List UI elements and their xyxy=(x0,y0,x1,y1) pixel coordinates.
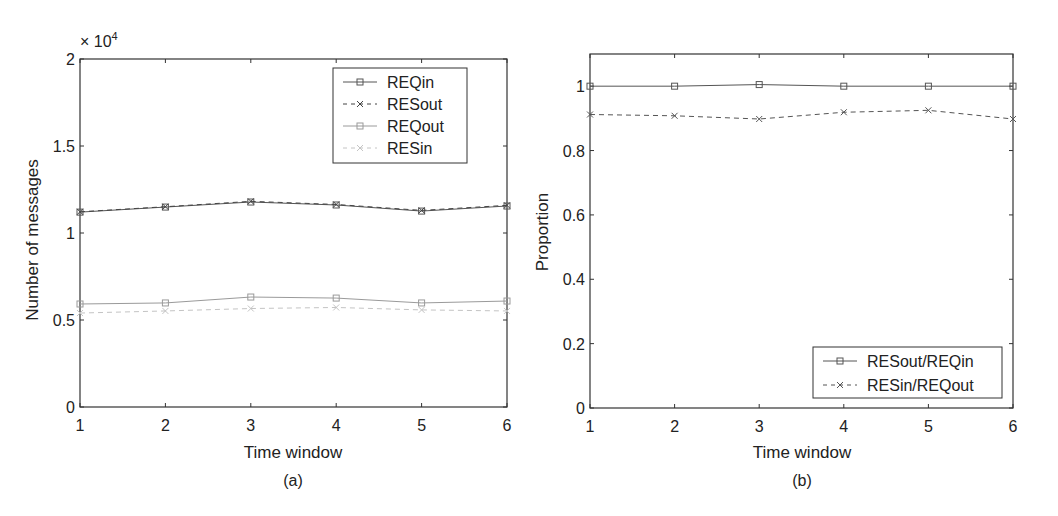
series-reqin xyxy=(77,199,510,215)
y-tick-label: 0.5 xyxy=(53,312,75,329)
series-resout xyxy=(77,198,510,214)
x-tick-label: 4 xyxy=(332,417,341,434)
y-axis-label-a: Number of messages xyxy=(23,159,42,321)
y-multiplier-exp: 4 xyxy=(112,30,118,42)
panel-label-a: (a) xyxy=(283,472,303,489)
x-tick-label: 3 xyxy=(246,417,255,434)
x-tick-label: 6 xyxy=(503,417,512,434)
legend-label: RESin xyxy=(387,140,432,157)
series-resout-reqin xyxy=(587,82,1016,90)
y-tick-label: 1 xyxy=(66,225,75,242)
legend-label: RESout/REQin xyxy=(867,353,974,370)
y-tick-label: 2 xyxy=(66,51,75,68)
x-tick-label: 1 xyxy=(586,418,595,435)
x-axis-label-a: Time window xyxy=(244,443,343,462)
series-line xyxy=(590,85,1013,87)
y-tick-label: 0.4 xyxy=(563,271,585,288)
x-tick-label: 5 xyxy=(924,418,933,435)
y-tick-label: 1 xyxy=(576,78,585,95)
legend-label: RESin/REQout xyxy=(867,377,974,394)
series-line xyxy=(80,202,507,212)
y-tick-label: 0.2 xyxy=(563,336,585,353)
x-tick-label: 2 xyxy=(670,418,679,435)
series-layer-b xyxy=(587,82,1016,122)
legend-label: RESout xyxy=(387,96,443,113)
y-multiplier-base: × 10 xyxy=(80,33,112,50)
y-axis-label-b: Proportion xyxy=(533,193,552,271)
series-resin xyxy=(77,304,510,316)
y-tick-label: 0.6 xyxy=(563,207,585,224)
x-tick-label: 2 xyxy=(161,417,170,434)
series-layer-a xyxy=(77,198,510,316)
x-tick-label: 6 xyxy=(1009,418,1018,435)
x-tick-label: 4 xyxy=(839,418,848,435)
x-tick-label: 5 xyxy=(417,417,426,434)
series-resin-reqout xyxy=(587,107,1016,122)
legend-label: REQout xyxy=(387,118,444,135)
chart-panel-a: 12345600.511.52 Time window (a) Number o… xyxy=(23,30,512,489)
y-multiplier-a: × 104 xyxy=(80,30,118,50)
y-tick-label: 1.5 xyxy=(53,138,75,155)
series-line xyxy=(80,297,507,304)
x-axis-label-b: Time window xyxy=(753,443,852,462)
y-tick-label: 0.8 xyxy=(563,143,585,160)
y-tick-label: 0 xyxy=(576,400,585,417)
legend-a: REQinRESoutREQoutRESin xyxy=(333,68,467,163)
y-tick-label: 0 xyxy=(66,399,75,416)
x-tick-label: 1 xyxy=(76,417,85,434)
series-reqout xyxy=(77,294,510,307)
figure: 12345600.511.52 Time window (a) Number o… xyxy=(0,0,1058,516)
chart-panel-b: 12345600.20.40.60.81 Time window (b) Pro… xyxy=(533,54,1018,489)
x-tick-label: 3 xyxy=(755,418,764,435)
legend-label: REQin xyxy=(387,74,434,91)
legend-b: RESout/REQinRESin/REQout xyxy=(813,347,1002,398)
series-line xyxy=(80,307,507,313)
panel-label-b: (b) xyxy=(792,472,812,489)
series-line xyxy=(590,110,1013,119)
